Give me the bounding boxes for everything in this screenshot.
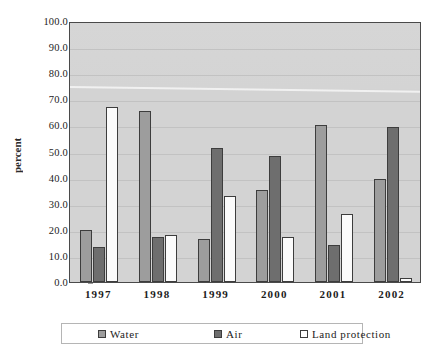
bar bbox=[400, 278, 412, 282]
x-axis-ticks: 199719981999200020012002 bbox=[69, 288, 421, 306]
bar bbox=[165, 235, 177, 282]
legend-swatch-icon bbox=[214, 330, 222, 338]
x-axis-tick-label: 1999 bbox=[186, 288, 245, 300]
x-axis-tick-label: 2000 bbox=[245, 288, 304, 300]
y-axis-tick-mark bbox=[88, 283, 93, 284]
y-axis-tick-label: 100.0 bbox=[30, 17, 68, 27]
y-axis-tick-label: 40.0 bbox=[30, 174, 68, 184]
y-axis-tick-label: 70.0 bbox=[30, 95, 68, 105]
y-axis-tick-label: 30.0 bbox=[30, 200, 68, 210]
bar bbox=[211, 148, 223, 282]
bar bbox=[106, 107, 118, 282]
bar-group bbox=[246, 23, 305, 282]
y-axis-tick-label: 0.0 bbox=[30, 278, 68, 288]
bar bbox=[269, 156, 281, 282]
bar bbox=[282, 237, 294, 282]
legend-item: Land protection bbox=[300, 327, 391, 341]
bar-group bbox=[70, 23, 129, 282]
plot-area bbox=[69, 22, 421, 283]
x-axis-tick-label: 1997 bbox=[69, 288, 128, 300]
y-axis-ticks: 100.090.080.070.060.050.040.030.020.010.… bbox=[24, 0, 68, 354]
bar bbox=[198, 239, 210, 282]
chart-legend: WaterAirLand protection bbox=[61, 323, 363, 344]
bar-group bbox=[187, 23, 246, 282]
legend-swatch-icon bbox=[98, 330, 106, 338]
legend-item: Air bbox=[214, 327, 242, 341]
bar bbox=[224, 196, 236, 282]
y-axis-tick-label: 20.0 bbox=[30, 226, 68, 236]
bar bbox=[328, 245, 340, 282]
bar bbox=[93, 247, 105, 282]
legend-label: Air bbox=[226, 328, 242, 340]
bar bbox=[80, 230, 92, 282]
y-axis-tick-label: 50.0 bbox=[30, 148, 68, 158]
y-axis-tick-label: 80.0 bbox=[30, 69, 68, 79]
x-axis-tick-label: 1998 bbox=[128, 288, 187, 300]
bar-group bbox=[363, 23, 421, 282]
bar-chart: percent 100.090.080.070.060.050.040.030.… bbox=[0, 0, 437, 354]
legend-swatch-icon bbox=[300, 330, 308, 338]
bar bbox=[315, 125, 327, 282]
bar bbox=[387, 127, 399, 282]
bar-group bbox=[129, 23, 188, 282]
bar-group bbox=[305, 23, 364, 282]
bar bbox=[152, 237, 164, 282]
legend-label: Land protection bbox=[312, 328, 391, 340]
x-axis-tick-label: 2002 bbox=[362, 288, 421, 300]
legend-label: Water bbox=[110, 328, 139, 340]
y-axis-tick-label: 60.0 bbox=[30, 121, 68, 131]
y-axis-tick-label: 90.0 bbox=[30, 43, 68, 53]
legend-item: Water bbox=[98, 327, 139, 341]
bar bbox=[139, 111, 151, 282]
bar bbox=[256, 190, 268, 282]
y-axis-tick-label: 10.0 bbox=[30, 252, 68, 262]
bar bbox=[341, 214, 353, 282]
bar bbox=[374, 179, 386, 282]
x-axis-tick-label: 2001 bbox=[304, 288, 363, 300]
